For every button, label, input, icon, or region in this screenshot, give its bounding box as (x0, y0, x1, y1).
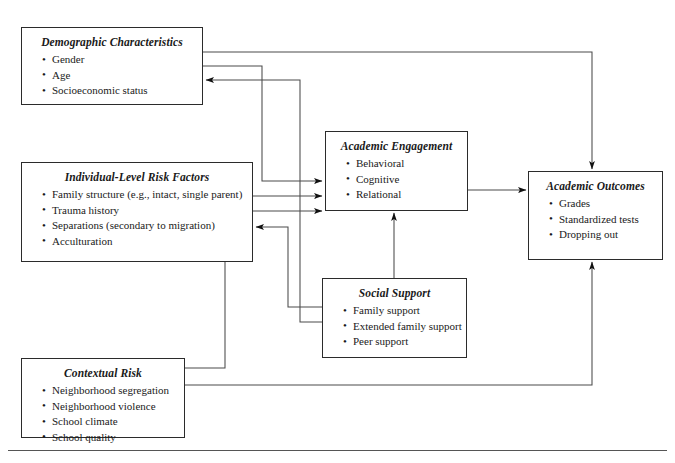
list-item: Behavioral (346, 156, 459, 172)
list-item: Cognitive (346, 172, 459, 188)
node-academic-outcomes[interactable]: Academic Outcomes Grades Standardized te… (528, 171, 663, 260)
diagram-canvas: Demographic Characteristics Gender Age S… (0, 0, 675, 463)
node-title: Academic Outcomes (537, 180, 654, 192)
footer-divider (8, 450, 667, 451)
node-individual-level-risk-factors[interactable]: Individual-Level Risk Factors Family str… (21, 162, 253, 262)
list-item: Age (42, 68, 194, 84)
list-item: Family structure (e.g., intact, single p… (42, 187, 244, 203)
list-item: Neighborhood segregation (42, 383, 176, 399)
list-item: Relational (346, 187, 459, 203)
list-item: Neighborhood violence (42, 399, 176, 415)
node-title: Social Support (331, 287, 458, 299)
list-item: Acculturation (42, 234, 244, 250)
list-item: Family support (343, 303, 458, 319)
node-contextual-risk[interactable]: Contextual Risk Neighborhood segregation… (21, 358, 185, 438)
node-academic-engagement[interactable]: Academic Engagement Behavioral Cognitive… (325, 131, 468, 211)
list-item: Gender (42, 52, 194, 68)
list-item: Grades (549, 196, 654, 212)
edge-support-to-individual (256, 227, 322, 307)
node-demographic-characteristics[interactable]: Demographic Characteristics Gender Age S… (21, 27, 203, 105)
node-title: Demographic Characteristics (30, 36, 194, 48)
list-item: School quality (42, 430, 176, 446)
list-item: Socioeconomic status (42, 83, 194, 99)
node-title: Academic Engagement (334, 140, 459, 152)
node-item-list: Behavioral Cognitive Relational (334, 156, 459, 203)
node-title: Contextual Risk (30, 367, 176, 379)
list-item: Extended family support (343, 319, 458, 335)
node-item-list: Family structure (e.g., intact, single p… (30, 187, 244, 249)
node-social-support[interactable]: Social Support Family support Extended f… (322, 278, 467, 358)
node-item-list: Grades Standardized tests Dropping out (537, 196, 654, 243)
list-item: School climate (42, 414, 176, 430)
node-item-list: Gender Age Socioeconomic status (30, 52, 194, 99)
list-item: Dropping out (549, 227, 654, 243)
list-item: Standardized tests (549, 212, 654, 228)
list-item: Trauma history (42, 203, 244, 219)
node-item-list: Neighborhood segregation Neighborhood vi… (30, 383, 176, 445)
list-item: Peer support (343, 334, 458, 350)
node-title: Individual-Level Risk Factors (30, 171, 244, 183)
node-item-list: Family support Extended family support P… (331, 303, 458, 350)
list-item: Separations (secondary to migration) (42, 218, 244, 234)
